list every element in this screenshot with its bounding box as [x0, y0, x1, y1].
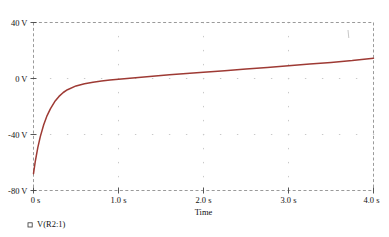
- grid-dot: [50, 78, 51, 79]
- grid-dot: [101, 134, 102, 135]
- artifact-mark: [348, 30, 349, 38]
- chart-legend: V(R2:1): [28, 219, 66, 229]
- grid-dot: [118, 106, 119, 107]
- grid-dot: [305, 134, 306, 135]
- grid-dot: [203, 50, 204, 51]
- grid-dot: [237, 78, 238, 79]
- grid-dot: [203, 36, 204, 37]
- grid-dot: [339, 78, 340, 79]
- grid-dot: [203, 106, 204, 107]
- grid-dot: [186, 78, 187, 79]
- axis-labels: 40 V0 V-40 V-80 V0 s1.0 s2.0 s3.0 s4.0 s: [8, 18, 379, 205]
- grid-dot: [186, 134, 187, 135]
- grid-dot: [169, 134, 170, 135]
- grid-dot: [254, 78, 255, 79]
- grid-dot: [118, 148, 119, 149]
- grid-dot: [203, 120, 204, 121]
- legend-marker-0[interactable]: [28, 223, 32, 227]
- grid-dot: [288, 92, 289, 93]
- grid-dot: [288, 162, 289, 163]
- grid-dot: [203, 148, 204, 149]
- grid-dot: [118, 162, 119, 163]
- grid-dot: [118, 120, 119, 121]
- series-line-0: [34, 58, 374, 174]
- grid-dot: [84, 78, 85, 79]
- grid-dot: [203, 176, 204, 177]
- x-axis-label: 2.0 s: [195, 195, 211, 205]
- tick-marks: [31, 23, 374, 194]
- grid-dot: [118, 36, 119, 37]
- legend-label-0[interactable]: V(R2:1): [37, 219, 66, 229]
- grid-dot: [203, 162, 204, 163]
- transient-analysis-chart: 40 V0 V-40 V-80 V0 s1.0 s2.0 s3.0 s4.0 s…: [0, 0, 389, 237]
- grid-dot: [237, 134, 238, 135]
- grid-dot: [288, 50, 289, 51]
- grid-dot: [254, 134, 255, 135]
- grid-dot: [288, 176, 289, 177]
- grid-dot: [288, 134, 289, 135]
- grid-dot: [118, 134, 119, 135]
- grid-dot: [288, 36, 289, 37]
- grid-dot: [67, 134, 68, 135]
- grid-dot: [220, 134, 221, 135]
- grid-dot: [288, 106, 289, 107]
- grid-dot: [135, 134, 136, 135]
- grid-dot: [356, 78, 357, 79]
- x-axis-title: Time: [195, 207, 213, 217]
- grid-dot: [271, 134, 272, 135]
- grid-dot: [288, 78, 289, 79]
- grid-dot: [50, 134, 51, 135]
- chart-container: 40 V0 V-40 V-80 V0 s1.0 s2.0 s3.0 s4.0 s…: [0, 0, 389, 237]
- grid-dot: [220, 78, 221, 79]
- grid-dot: [203, 78, 204, 79]
- minor-gridlines: [33, 22, 374, 191]
- grid-dot: [288, 120, 289, 121]
- grid-dot: [118, 64, 119, 65]
- x-axis-label: 1.0 s: [110, 195, 126, 205]
- grid-dot: [339, 134, 340, 135]
- grid-dot: [305, 78, 306, 79]
- grid-dot: [101, 78, 102, 79]
- x-axis-label: 4.0 s: [363, 195, 379, 205]
- grid-dot: [169, 78, 170, 79]
- grid-dot: [152, 78, 153, 79]
- grid-dot: [203, 64, 204, 65]
- grid-dot: [322, 78, 323, 79]
- grid-dot: [118, 22, 119, 23]
- y-axis-label: -80 V: [8, 186, 28, 196]
- grid-dot: [118, 50, 119, 51]
- grid-dot: [84, 134, 85, 135]
- grid-dot: [322, 134, 323, 135]
- y-axis-label: 40 V: [11, 18, 28, 28]
- x-axis-label: 3.0 s: [280, 195, 296, 205]
- y-axis-label: -40 V: [8, 130, 28, 140]
- grid-dot: [203, 92, 204, 93]
- cursor-artifact: [348, 30, 349, 38]
- grid-dot: [373, 134, 374, 135]
- grid-dot: [67, 78, 68, 79]
- grid-dot: [152, 134, 153, 135]
- grid-dot: [271, 78, 272, 79]
- grid-dot: [118, 176, 119, 177]
- y-axis-label: 0 V: [15, 74, 28, 84]
- grid-dot: [288, 148, 289, 149]
- x-axis-label: 0 s: [31, 195, 41, 205]
- grid-dot: [118, 92, 119, 93]
- grid-dot: [356, 134, 357, 135]
- grid-dot: [203, 134, 204, 135]
